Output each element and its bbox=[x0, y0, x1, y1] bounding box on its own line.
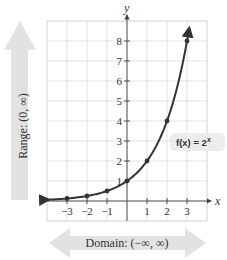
data-point bbox=[185, 39, 190, 44]
function-label-text: f(x) = 2 bbox=[176, 137, 207, 148]
axis-ticks: −3−2−112312345678 bbox=[61, 35, 190, 217]
data-point bbox=[165, 119, 170, 124]
data-point bbox=[105, 189, 110, 194]
data-point bbox=[145, 159, 150, 164]
x-tick-label: −3 bbox=[61, 205, 73, 217]
x-tick-label: −2 bbox=[81, 205, 93, 217]
y-tick-label: 7 bbox=[117, 55, 123, 67]
x-tick-label: 3 bbox=[184, 205, 190, 217]
y-tick-label: 2 bbox=[117, 155, 123, 167]
x-tick-label: 2 bbox=[164, 205, 170, 217]
x-axis-label: x bbox=[214, 194, 221, 208]
x-tick-label: −1 bbox=[101, 205, 113, 217]
svg-text:f(x) = 2x: f(x) = 2x bbox=[176, 136, 211, 148]
function-label: f(x) = 2x bbox=[170, 133, 225, 151]
domain-arrow: Domain: (−∞, ∞) bbox=[49, 228, 206, 258]
y-tick-label: 8 bbox=[117, 35, 123, 47]
y-axis-label: y bbox=[123, 1, 130, 15]
range-label: Range: (0, ∞) bbox=[16, 93, 30, 159]
exponential-function-chart: Range: (0, ∞) x y −3−2−112312345678 f(x)… bbox=[0, 0, 227, 260]
y-tick-label: 3 bbox=[117, 135, 123, 147]
data-point bbox=[125, 179, 130, 184]
y-tick-label: 5 bbox=[117, 95, 123, 107]
data-point bbox=[85, 194, 90, 199]
data-point bbox=[65, 196, 70, 201]
function-label-exponent: x bbox=[207, 136, 211, 143]
y-tick-label: 6 bbox=[117, 75, 123, 87]
domain-label: Domain: (−∞, ∞) bbox=[86, 236, 169, 250]
range-arrow: Range: (0, ∞) bbox=[4, 21, 36, 200]
x-tick-label: 1 bbox=[144, 205, 150, 217]
y-tick-label: 4 bbox=[117, 115, 123, 127]
